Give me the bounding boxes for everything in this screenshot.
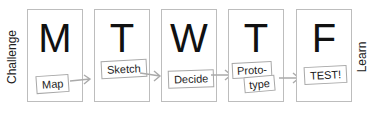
day-letter: F [297, 16, 351, 60]
arrow-icon [211, 69, 227, 79]
activity-tag-map: Map [35, 74, 70, 94]
activity-tag-prototype-line2: type [243, 75, 275, 94]
challenge-label: Challenge [5, 30, 19, 84]
day-letter: M [28, 16, 82, 60]
activity-tag-decide: Decide [168, 69, 215, 89]
activity-tag-test: TEST! [304, 65, 348, 85]
day-card-tuesday: T [94, 9, 150, 102]
arrow-icon [70, 74, 86, 84]
day-card-friday: F [296, 9, 352, 102]
challenge-label-wrap: Challenge [2, 0, 22, 114]
learn-label: Learn [355, 42, 369, 73]
day-letter: T [229, 16, 283, 60]
day-letter: T [95, 16, 149, 60]
learn-label-wrap: Learn [352, 0, 372, 114]
arrow-icon [279, 72, 295, 82]
day-letter: W [162, 16, 216, 60]
arrow-icon [140, 70, 156, 80]
